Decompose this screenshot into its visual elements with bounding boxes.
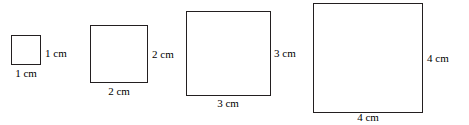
square-3 — [186, 11, 271, 96]
square-2 — [90, 25, 148, 83]
square-4-side-label: 4 cm — [427, 52, 449, 64]
square-1-bottom-label: 1 cm — [6, 67, 46, 79]
square-1-side-label: 1 cm — [45, 47, 67, 59]
square-2-side-label: 2 cm — [152, 48, 174, 60]
square-4 — [313, 3, 423, 113]
square-4-bottom-label: 4 cm — [348, 111, 388, 123]
square-3-bottom-label: 3 cm — [208, 97, 248, 109]
squares-figure: 1 cm 1 cm 2 cm 2 cm 3 cm 3 cm 4 cm 4 cm — [0, 0, 469, 125]
square-1 — [11, 35, 41, 65]
square-2-bottom-label: 2 cm — [99, 85, 139, 97]
square-3-side-label: 3 cm — [274, 47, 296, 59]
